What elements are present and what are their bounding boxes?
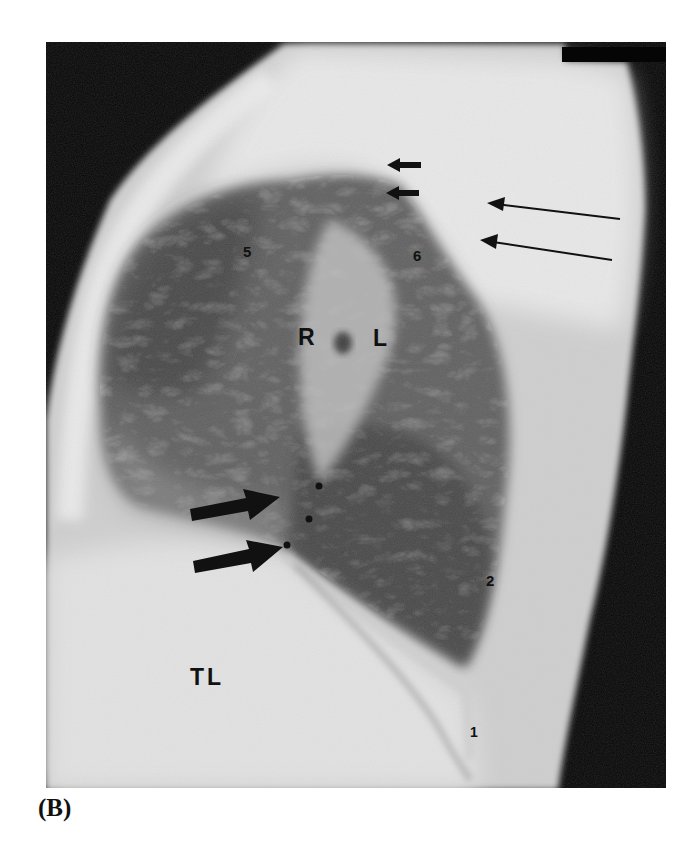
label-tl: TL (190, 666, 224, 689)
label-left-hilum: L (373, 327, 387, 350)
fissure-dot (284, 542, 291, 549)
label-region-1: 1 (470, 725, 478, 739)
label-right-hilum: R (298, 326, 315, 349)
lateral-chest-xray-image (0, 0, 686, 845)
label-region-6: 6 (413, 248, 421, 263)
panel-label: (B) (38, 795, 71, 820)
label-region-2: 2 (486, 573, 494, 588)
label-region-5: 5 (243, 244, 251, 259)
fissure-dot (316, 483, 323, 490)
radiograph-figure: 5 6 R L 2 TL 1 (B) (0, 0, 686, 845)
fissure-dot (306, 516, 313, 523)
